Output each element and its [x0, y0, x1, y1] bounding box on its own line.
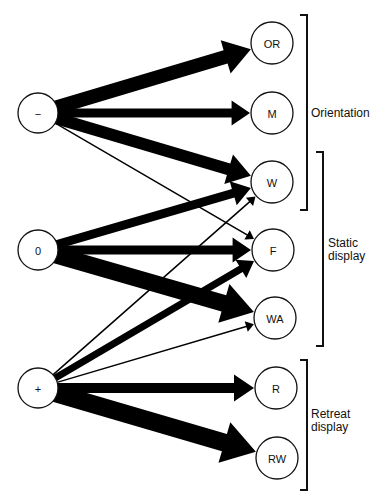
arrow-pos-to-WA [55, 321, 254, 383]
group-static-display: Staticdisplay [316, 152, 365, 346]
bracket [300, 360, 307, 490]
node-label: OR [264, 38, 281, 50]
arrow-zero-to-WA [53, 247, 254, 323]
node-label: WA [266, 313, 284, 325]
node-neg: − [18, 93, 58, 133]
arrow-zero-to-W [54, 181, 251, 249]
bracket [316, 152, 323, 346]
node-r: R [255, 367, 297, 409]
group-label: Static [328, 236, 358, 250]
node-m: M [251, 92, 293, 134]
arrow-pos-to-W [51, 197, 256, 377]
bracket [300, 15, 307, 210]
node-label: M [267, 108, 276, 120]
node-or: OR [251, 22, 293, 64]
group-label: Retreat [311, 407, 351, 421]
node-label: R [272, 383, 280, 395]
arrow-neg-to-W [54, 112, 251, 184]
group-label: display [311, 420, 348, 434]
node-label: 0 [35, 245, 41, 257]
node-zero: 0 [18, 230, 58, 270]
node-label: W [267, 177, 278, 189]
node-pos: + [18, 368, 58, 408]
node-label: RW [268, 453, 287, 465]
node-rw: RW [256, 437, 298, 479]
node-label: − [35, 108, 41, 120]
node-wa: WA [254, 297, 296, 339]
arrow-pos-to-RW [53, 384, 256, 462]
node-label: F [270, 245, 277, 257]
group-orientation: Orientation [300, 15, 370, 210]
node-w: W [251, 161, 293, 203]
group-retreat-display: Retreatdisplay [300, 360, 351, 490]
groups-layer: OrientationStaticdisplayRetreatdisplay [300, 15, 370, 490]
node-f: F [252, 229, 294, 271]
group-label: display [328, 249, 365, 263]
behavior-transition-diagram: −0+ORMWFWARRW OrientationStaticdisplayRe… [0, 0, 388, 504]
edges-layer [51, 40, 256, 463]
node-label: + [35, 383, 41, 395]
arrow-neg-to-OR [53, 40, 251, 114]
arrow-neg-to-F [53, 121, 254, 239]
group-label: Orientation [311, 106, 370, 120]
